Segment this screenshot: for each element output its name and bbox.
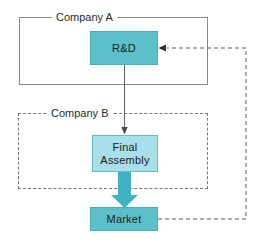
connector-final-assembly-to-market — [111, 172, 138, 208]
node-rd-label: R&D — [112, 42, 136, 55]
arrowhead-left-icon — [159, 45, 167, 52]
node-rd[interactable]: R&D — [90, 31, 158, 65]
node-final-assembly-label: Final Assembly — [100, 141, 149, 167]
connector-rd-to-final-assembly — [121, 65, 127, 135]
node-final-assembly[interactable]: Final Assembly — [92, 135, 158, 172]
diagram-canvas: Company A Company B R&D Final Assembly M… — [0, 0, 260, 243]
node-market[interactable]: Market — [90, 207, 158, 231]
feedback-dashed-path — [158, 48, 246, 219]
arrowhead-down-icon — [121, 127, 127, 135]
block-arrow-down-icon — [111, 172, 138, 208]
node-market-label: Market — [107, 213, 142, 226]
connector-market-to-rd-feedback — [158, 45, 246, 219]
